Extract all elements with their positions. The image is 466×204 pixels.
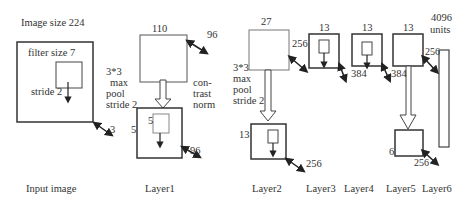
- pool2-label-line3: pool: [233, 84, 252, 95]
- layer6-caption: Layer6: [422, 183, 452, 194]
- layer1-size-label: 110: [152, 23, 167, 34]
- contrast-norm-line2: trast: [193, 88, 211, 99]
- layer3-depth-label: 384: [351, 68, 367, 79]
- input-image-size-label: Image size 224: [21, 17, 85, 28]
- pool1-label-line4: stride 2: [106, 99, 137, 110]
- pool1-label-line1: 3*3: [106, 66, 122, 77]
- layer6-units-line2: units: [430, 24, 450, 35]
- layer4-depth-label: 384: [391, 68, 407, 79]
- pool2-label-line4: stride 2: [233, 95, 264, 106]
- depth-arrow-icon: [291, 58, 305, 70]
- layer5-bottom-size-label: 6: [389, 146, 394, 157]
- layer5-caption: Layer5: [386, 183, 416, 194]
- depth-arrow-icon: [383, 66, 389, 79]
- layer1-bottom-depth-label: 96: [190, 145, 201, 156]
- layer2-bottom-depth-label: 256: [306, 158, 322, 169]
- layer1-conv-box: [140, 35, 187, 82]
- layer2-caption: Layer2: [252, 183, 282, 194]
- downsample-arrow-icon: [155, 80, 171, 108]
- contrast-norm-line1: con-: [193, 77, 212, 88]
- depth-arrow-icon: [288, 160, 302, 170]
- depth-arrow-icon: [189, 42, 205, 52]
- layer2-conv-box: [249, 30, 289, 70]
- depth-arrow-icon: [96, 124, 110, 134]
- layer1-depth-label: 96: [207, 29, 218, 40]
- layer6-fc-bar: [439, 50, 449, 147]
- layer3-filter-box: [319, 40, 329, 53]
- layer6-depth-label: 256: [425, 46, 440, 57]
- layer1-filter-box: [153, 114, 169, 133]
- layer4-filter-box: [362, 42, 372, 55]
- input-depth-label: 3: [110, 124, 115, 135]
- layer4-caption: Layer4: [344, 183, 374, 194]
- layer1-caption: Layer1: [145, 183, 175, 194]
- layer1-side-size-label: 5: [131, 124, 136, 135]
- layer3-caption: Layer3: [306, 183, 336, 194]
- layer5-pool-box: [395, 130, 423, 156]
- layer4-size-label: 13: [362, 22, 373, 33]
- filter-size-label: filter size 7: [28, 47, 75, 58]
- pool2-label-line1: 3*3: [233, 62, 249, 73]
- layer2-filter-box: [268, 130, 278, 143]
- layer3-block: [309, 34, 345, 79]
- stride-label: stride 2: [31, 86, 62, 97]
- layer2-depth-label: 256: [292, 38, 308, 49]
- input-image-caption: Input image: [26, 183, 76, 194]
- layer2-size-label: 27: [261, 16, 272, 27]
- layer3-size-label: 13: [319, 22, 330, 33]
- depth-arrow-icon: [340, 66, 345, 79]
- layer1-filter-size-label: 5: [148, 115, 153, 126]
- contrast-norm-line3: norm: [193, 99, 215, 110]
- layer5-conv-box: [393, 34, 423, 66]
- layer2-bottom-size-label: 13: [239, 129, 250, 140]
- depth-arrow-icon: [424, 58, 436, 71]
- layer6-block: [424, 50, 449, 147]
- layer5-size-label: 13: [403, 22, 414, 33]
- input-filter-box: [56, 62, 82, 88]
- layer6-units-line1: 4096: [431, 12, 452, 23]
- layer5-bottom-depth-label: 256: [414, 157, 429, 168]
- pool1-label-line3: pool: [106, 88, 125, 99]
- pool2-label-line2: max: [233, 73, 251, 84]
- pool1-label-line2: max: [110, 77, 128, 88]
